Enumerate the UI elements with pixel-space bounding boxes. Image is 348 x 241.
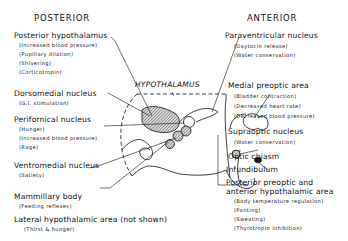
label-function: (Decreased heart rate) [234, 104, 301, 109]
label-title: Optic chiasm [228, 153, 279, 161]
label-function: (Satiety) [19, 173, 44, 178]
label-function: (Water conservation) [234, 140, 296, 145]
leader-ventromedial [89, 138, 176, 168]
label-function: (Increased blood pressure) [19, 43, 97, 48]
label-title: Perifornical nucleus [14, 116, 91, 124]
label-function: (Corticotropin) [19, 70, 62, 75]
hypothalamus-label: HYPOTHALAMUS [135, 81, 200, 88]
label-function: (Sweating) [234, 217, 266, 222]
label-title: Lateral hypothalamic area (not shown) [14, 216, 167, 224]
label-title-line2: anterior hypothalamic area [226, 188, 333, 196]
label-function: (Thyrotropin inhibition) [234, 226, 302, 231]
label-title: Medial preoptic area [228, 82, 309, 90]
label-function: (Shivering) [19, 61, 51, 66]
label-function: (Pupillary dilation) [19, 52, 73, 57]
label-title: Paraventricular nucleus [225, 32, 318, 40]
anterior-header: ANTERIOR [247, 14, 297, 23]
label-function: (Oxytocin release) [234, 44, 288, 49]
label-title: Infundibulum [226, 166, 278, 174]
label-function: (Water conservation) [234, 53, 296, 58]
posterior-header: POSTERIOR [34, 14, 90, 23]
label-function: (G.I. stimulation) [19, 101, 69, 106]
label-title: Dorsomedial nucleus [14, 90, 97, 98]
label-title: Mammillary body [14, 193, 82, 201]
label-function: (Body temperature regulation) [234, 199, 324, 204]
label-function: (Thirst & hunger) [24, 227, 75, 232]
label-function: (Rage) [19, 145, 38, 150]
label-function: (Panting) [234, 208, 261, 213]
leader-dorsomedial [108, 93, 150, 116]
label-function: (Increased blood pressure) [19, 136, 97, 141]
label-function: (Bladder contraction) [234, 94, 297, 99]
label-function: (Decreased blood pressure) [234, 114, 315, 119]
label-function: (Hunger) [19, 127, 45, 132]
label-title: Posterior preoptic and [226, 179, 313, 187]
label-function: (Feeding reflexes) [19, 204, 72, 209]
label-title: Ventromedial nucleus [14, 162, 99, 170]
leader-mammillary [100, 142, 168, 188]
dorsomedial-region [142, 107, 179, 133]
label-title: Posterior hypothalamus [14, 32, 107, 40]
leader-posterior-hypothalamus [111, 37, 152, 116]
label-title: Supraoptic nucleus [228, 128, 303, 136]
ventromedial-nucleus-shape [166, 140, 175, 149]
